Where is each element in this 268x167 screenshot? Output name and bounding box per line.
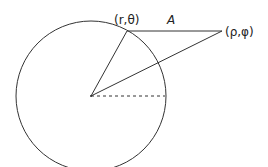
center-to-external-line <box>91 31 222 96</box>
radius-line <box>91 31 127 96</box>
center-point <box>90 95 92 97</box>
label-distance-A: A <box>166 13 175 27</box>
label-point-on-circle: (r,θ) <box>114 13 139 27</box>
diagram-canvas: (r,θ) A (ρ,φ) <box>0 0 268 167</box>
label-external-point: (ρ,φ) <box>225 25 254 39</box>
circle <box>16 21 166 167</box>
